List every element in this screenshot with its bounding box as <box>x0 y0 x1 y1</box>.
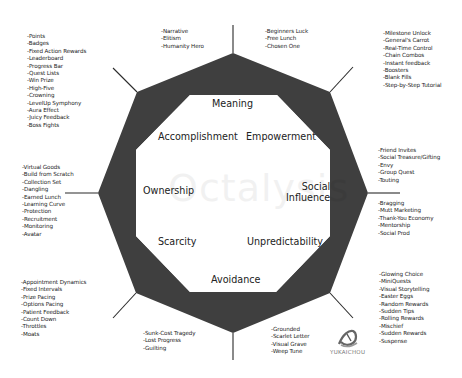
list-item: -Mutt Marketing <box>378 207 433 214</box>
list-bottom-left: -Sunk-Cost Tragedy -Lost Progress -Guilt… <box>143 330 196 352</box>
list-item: -Fixed Action Rewards <box>27 48 86 55</box>
list-item: -MiniQuests <box>379 278 429 285</box>
list-item: -Easter Eggs <box>379 293 429 300</box>
list-right-lower: -Bragging -Mutt Marketing -Thank-You Eco… <box>378 200 433 237</box>
core-drive-avoidance: Avoidance <box>211 274 260 285</box>
list-item: -Mischief <box>379 323 429 330</box>
list-item: -Friend Invites <box>378 147 440 154</box>
list-item: -Protection <box>22 208 74 215</box>
list-item: -Scarlet Letter <box>271 333 309 340</box>
list-item: -Progress Bar <box>27 63 86 70</box>
list-item: -Narrative <box>161 28 204 35</box>
core-drive-meaning: Meaning <box>212 98 253 109</box>
list-item: -Humanity Hero <box>161 43 204 50</box>
list-item: -Chosen One <box>265 43 308 50</box>
list-item: -Count Down <box>21 316 86 323</box>
list-item: -Boss Fights <box>27 122 86 129</box>
list-item: -Visual Grave <box>271 341 309 348</box>
list-item: -Sunk-Cost Tragedy <box>143 330 196 337</box>
list-item: -General's Carrot <box>383 37 441 44</box>
core-drive-empowerment: Empowerment <box>246 131 316 142</box>
core-drive-unpredictability: Unpredictability <box>247 236 323 247</box>
list-item: -LevelUp Symphony <box>27 100 86 107</box>
list-item: -Throttles <box>21 323 86 330</box>
list-item: -Badges <box>27 40 86 47</box>
list-item: -Suspense <box>379 338 429 345</box>
list-item: -Aura Effect <box>27 107 86 114</box>
list-item: -High-Five <box>27 85 86 92</box>
list-item: -Real-Time Control <box>383 45 441 52</box>
list-item: -Bragging <box>378 200 433 207</box>
list-lower-right: -Glowing Choice -MiniQuests -Visual Stor… <box>379 271 429 345</box>
list-item: -Leaderboard <box>27 55 86 62</box>
list-item: -Juicy Feedback <box>27 114 86 121</box>
list-upper-right: -Milestone Unlock -General's Carrot -Rea… <box>383 30 441 89</box>
list-item: -Options Pacing <box>21 301 86 308</box>
list-item: -Learning Curve <box>22 201 74 208</box>
list-item: -Step-by-Step Tutorial <box>383 82 441 89</box>
list-item: -Points <box>27 33 86 40</box>
list-item: -Guilting <box>143 345 196 352</box>
list-item: -Recruitment <box>22 216 74 223</box>
list-item: -Milestone Unlock <box>383 30 441 37</box>
list-item: -Prize Pacing <box>21 294 86 301</box>
yukaichou-logo-icon <box>335 328 361 350</box>
list-left: -Virtual Goods -Build from Scratch -Coll… <box>22 164 74 238</box>
list-item: -Lost Progress <box>143 337 196 344</box>
list-item: -Rolling Rewards <box>379 315 429 322</box>
list-item: -Patient Feedback <box>21 309 86 316</box>
core-drive-accomplishment: Accomplishment <box>158 131 238 142</box>
core-drive-scarcity: Scarcity <box>158 236 196 247</box>
list-item: -Avatar <box>22 231 74 238</box>
list-item: -Grounded <box>271 326 309 333</box>
list-item: -Crowning <box>27 92 86 99</box>
list-item: -Mentorship <box>378 222 433 229</box>
list-item: -Moats <box>21 331 86 338</box>
social-influence-line2: Influence <box>286 192 330 203</box>
list-top-right: -Beginners Luck -Free Lunch -Chosen One <box>265 28 308 50</box>
list-bottom-right: -Grounded -Scarlet Letter -Visual Grave … <box>271 326 309 356</box>
list-lower-left: -Appointment Dynamics -Fixed Intervals -… <box>21 279 86 338</box>
list-item: -Earned Lunch <box>22 194 74 201</box>
list-upper-left: -Points -Badges -Fixed Action Rewards -L… <box>27 33 86 129</box>
list-item: -Touting <box>378 177 440 184</box>
list-item: -Build from Scratch <box>22 171 74 178</box>
list-item: -Boosters <box>383 67 441 74</box>
list-item: -Monitoring <box>22 223 74 230</box>
list-right-upper: -Friend Invites -Social Treasure/Gifting… <box>378 147 440 184</box>
list-item: -Beginners Luck <box>265 28 308 35</box>
list-item: -Sudden Rewards <box>379 330 429 337</box>
list-item: -Instant feedback <box>383 60 441 67</box>
list-item: -Dangling <box>22 186 74 193</box>
list-item: -Random Rewards <box>379 301 429 308</box>
list-item: -Blank Fills <box>383 74 441 81</box>
list-item: -Free Lunch <box>265 35 308 42</box>
list-item: -Envy <box>378 162 440 169</box>
list-item: -Quest Lists <box>27 70 86 77</box>
list-item: -Visual Storytelling <box>379 286 429 293</box>
yukaichou-logo-text: YUKAICHOU <box>330 349 365 355</box>
list-item: -Group Quest <box>378 169 440 176</box>
list-item: -Virtual Goods <box>22 164 74 171</box>
list-item: -Elitism <box>161 35 204 42</box>
list-item: -Sudden Tips <box>379 308 429 315</box>
list-top-left: -Narrative -Elitism -Humanity Hero <box>161 28 204 50</box>
list-item: -Appointment Dynamics <box>21 279 86 286</box>
list-item: -Chain Combos <box>383 52 441 59</box>
list-item: -Glowing Choice <box>379 271 429 278</box>
list-item: -Win Prize <box>27 77 86 84</box>
list-item: -Weep Tune <box>271 348 309 355</box>
list-item: -Fixed Intervals <box>21 286 86 293</box>
list-item: -Collection Set <box>22 179 74 186</box>
list-item: -Social Prod <box>378 230 433 237</box>
core-drive-ownership: Ownership <box>143 185 194 196</box>
social-influence-line1: Social <box>286 181 330 192</box>
list-item: -Social Treasure/Gifting <box>378 154 440 161</box>
list-item: -Thank-You Economy <box>378 215 433 222</box>
core-drive-social-influence: Social Influence <box>286 181 330 203</box>
